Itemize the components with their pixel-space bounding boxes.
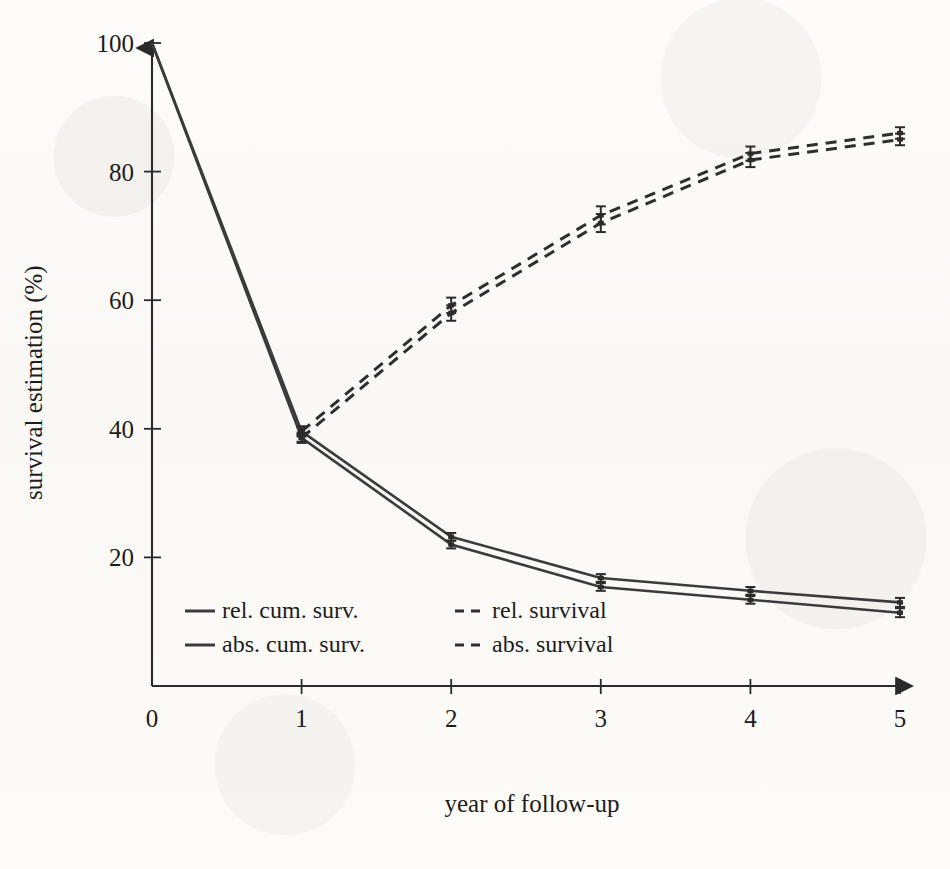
chart-series-layer — [152, 43, 905, 617]
data-point-marker — [448, 542, 454, 546]
data-point-marker — [747, 598, 753, 602]
legend-label: abs. survival — [492, 631, 614, 657]
y-tick-label: 40 — [109, 416, 134, 443]
y-axis-title: survival estimation (%) — [20, 265, 48, 500]
y-tick-label: 100 — [97, 30, 135, 57]
data-point-marker — [747, 589, 753, 593]
x-tick-label: 3 — [595, 705, 608, 732]
data-point-marker — [299, 436, 305, 440]
x-tick-label: 5 — [894, 705, 907, 732]
x-tick-label: 4 — [744, 705, 757, 732]
series-line — [302, 133, 900, 431]
y-tick-label: 60 — [109, 287, 134, 314]
data-point-marker — [598, 576, 604, 580]
series-line — [152, 43, 900, 602]
data-point-marker — [897, 137, 903, 141]
legend-label: rel. survival — [492, 597, 607, 623]
chart-legend: rel. cum. surv.rel. survivalabs. cum. su… — [185, 597, 614, 657]
legend-label: rel. cum. surv. — [222, 597, 358, 623]
chart-figure: 20406080100 012345 rel. cum. surv.rel. s… — [0, 0, 950, 869]
data-point-marker — [598, 221, 604, 225]
legend-label: abs. cum. surv. — [222, 631, 365, 657]
data-point-marker — [747, 158, 753, 162]
data-point-marker — [448, 311, 454, 315]
y-tick-label: 80 — [109, 159, 134, 186]
data-point-marker — [598, 585, 604, 589]
x-tick-label: 0 — [146, 705, 159, 732]
x-tick-label: 1 — [295, 705, 308, 732]
series-line — [152, 43, 900, 613]
x-axis-title: year of follow-up — [445, 790, 620, 817]
series-line — [302, 140, 900, 438]
x-tick-label: 2 — [445, 705, 458, 732]
data-point-marker — [897, 600, 903, 604]
y-tick-label: 20 — [109, 544, 134, 571]
chart-svg: 20406080100 012345 rel. cum. surv.rel. s… — [0, 0, 950, 869]
data-point-marker — [897, 610, 903, 614]
data-point-marker — [448, 535, 454, 539]
